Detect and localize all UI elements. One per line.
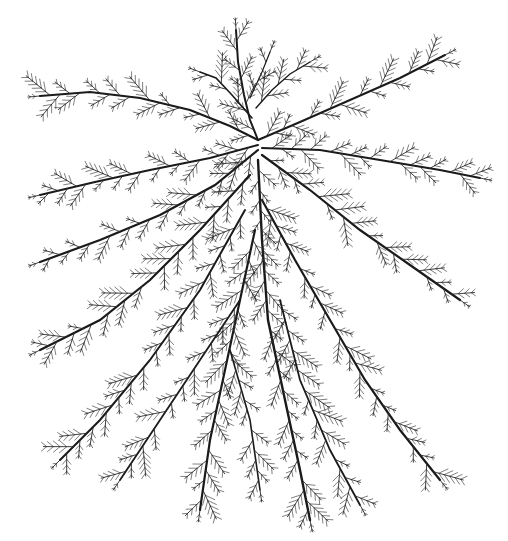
branching-drawing (0, 0, 508, 541)
dendrite-illustration (0, 0, 508, 541)
